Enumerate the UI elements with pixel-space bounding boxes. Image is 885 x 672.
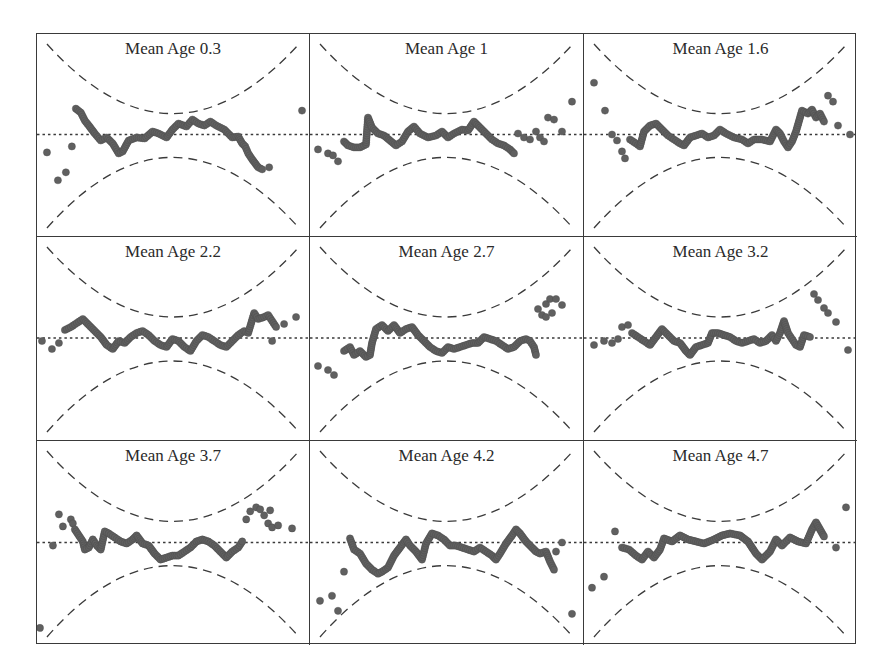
data-points: [43, 105, 305, 184]
panel-title: Mean Age 2.2: [37, 242, 309, 262]
data-point: [542, 313, 549, 320]
data-point: [834, 122, 841, 129]
chart-panel-4: Mean Age 2.2: [37, 237, 310, 441]
data-point: [314, 146, 321, 153]
data-point: [261, 512, 268, 519]
data-point: [806, 333, 813, 340]
data-point: [37, 624, 44, 631]
panel-title: Mean Age 3.7: [37, 446, 309, 466]
panel-title: Mean Age 2.7: [310, 242, 583, 262]
data-point: [624, 321, 631, 328]
data-point: [526, 136, 533, 143]
data-point: [558, 301, 565, 308]
chart-panel-7: Mean Age 3.7: [37, 441, 310, 645]
data-point: [844, 346, 851, 353]
data-point: [558, 128, 565, 135]
data-point: [55, 339, 62, 346]
data-point: [510, 150, 517, 157]
data-point: [558, 539, 565, 546]
lower-limit-curve: [47, 566, 299, 637]
chart-panel-9: Mean Age 4.7: [584, 441, 857, 645]
data-point: [590, 341, 597, 348]
data-point: [54, 177, 61, 184]
chart-panel-2: Mean Age 1: [310, 34, 584, 237]
data-point: [316, 597, 323, 604]
data-point: [288, 525, 295, 532]
data-point: [266, 164, 273, 171]
data-point: [824, 309, 831, 316]
data-point: [600, 337, 607, 344]
data-points: [314, 98, 575, 165]
lower-limit-curve: [594, 566, 847, 637]
data-point: [552, 548, 559, 555]
lower-limit-curve: [320, 157, 573, 228]
data-points: [37, 504, 296, 632]
data-point: [62, 169, 69, 176]
data-point: [334, 607, 341, 614]
panel-plot: [310, 441, 583, 645]
chart-panel-1: Mean Age 0.3: [37, 34, 310, 237]
data-point: [600, 573, 607, 580]
data-point: [532, 351, 539, 358]
data-point: [68, 143, 75, 150]
data-point: [267, 507, 274, 514]
lower-limit-curve: [320, 361, 573, 432]
data-point: [550, 116, 557, 123]
data-point: [842, 504, 849, 511]
data-point: [540, 138, 547, 145]
data-point: [820, 533, 827, 540]
data-point: [239, 538, 246, 545]
panel-title: Mean Age 1: [310, 39, 583, 59]
data-point: [55, 511, 62, 518]
chart-panel-8: Mean Age 4.2: [310, 441, 584, 645]
data-point: [814, 296, 821, 303]
data-point: [324, 366, 331, 373]
chart-panel-3: Mean Age 1.6: [584, 34, 857, 237]
data-point: [43, 149, 50, 156]
data-points: [590, 290, 851, 358]
data-point: [273, 323, 280, 330]
panel-plot: [37, 441, 309, 645]
lower-limit-curve: [594, 157, 847, 228]
data-point: [259, 166, 266, 173]
control-chart-grid: Mean Age 0.3 Mean Age 1 Mean Age 1.6 Mea…: [36, 33, 856, 644]
data-point: [824, 92, 831, 99]
data-point: [601, 107, 608, 114]
panel-plot: [37, 237, 309, 440]
data-point: [275, 522, 282, 529]
data-point: [552, 295, 559, 302]
chart-panel-5: Mean Age 2.7: [310, 237, 584, 441]
lower-limit-curve: [320, 566, 573, 637]
data-point: [298, 107, 305, 114]
data-point: [550, 566, 557, 573]
data-point: [621, 155, 628, 162]
data-point: [846, 131, 853, 138]
panel-title: Mean Age 4.2: [310, 446, 583, 466]
data-point: [329, 152, 336, 159]
data-point: [820, 118, 827, 125]
data-point: [328, 592, 335, 599]
data-point: [38, 337, 45, 344]
data-point: [568, 98, 575, 105]
data-points: [316, 526, 575, 618]
data-points: [590, 79, 853, 162]
data-point: [588, 584, 595, 591]
data-point: [48, 345, 55, 352]
data-point: [608, 131, 615, 138]
data-point: [611, 528, 618, 535]
chart-panel-6: Mean Age 3.2: [584, 237, 857, 441]
data-point: [590, 79, 597, 86]
data-point: [243, 516, 250, 523]
data-point: [618, 148, 625, 155]
panel-title: Mean Age 4.7: [584, 446, 857, 466]
data-point: [281, 320, 288, 327]
data-point: [832, 318, 839, 325]
data-points: [588, 504, 849, 592]
data-points: [314, 295, 565, 378]
data-point: [292, 313, 299, 320]
panel-plot: [584, 34, 857, 236]
panel-plot: [310, 34, 583, 236]
data-point: [340, 568, 347, 575]
data-point: [59, 523, 66, 530]
data-points: [38, 309, 299, 354]
